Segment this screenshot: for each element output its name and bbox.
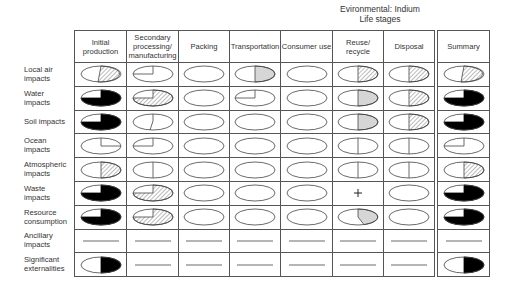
three-quarter-black-rating-icon	[443, 208, 485, 226]
column-header: Reuse/ recycle	[333, 31, 384, 63]
rating-cell	[230, 110, 281, 134]
rating-cell	[75, 134, 127, 158]
half-line-rating-icon	[337, 137, 379, 155]
three-quarter-black-rating-icon	[443, 184, 485, 202]
rating-cell	[281, 63, 333, 87]
rating-cell	[384, 181, 435, 205]
half-line-rating-icon	[388, 137, 430, 155]
column-header: Packing	[179, 31, 230, 63]
rating-cell	[179, 63, 230, 87]
summary-cell	[438, 253, 490, 277]
half-line-rating-icon	[337, 161, 379, 179]
quarter-outline-rating-icon	[443, 137, 485, 155]
dash-icon	[286, 256, 328, 274]
rating-cell	[333, 205, 384, 229]
summary-row	[438, 86, 490, 110]
row-label: Waste impacts	[24, 181, 72, 205]
rating-cell	[179, 181, 230, 205]
column-header-summary: Summary	[438, 31, 490, 63]
three-quarter-hatch-rating-icon	[132, 184, 174, 202]
rating-cell	[281, 253, 333, 277]
row-label: Local air impacts	[24, 62, 72, 86]
three-quarter-black-rating-icon	[80, 208, 122, 226]
title-line-1: Evironmental: Indium	[250, 4, 510, 14]
three-quarter-black-rating-icon	[80, 184, 122, 202]
rating-cell	[281, 110, 333, 134]
rating-cell	[75, 110, 127, 134]
rating-cell	[179, 110, 230, 134]
rating-cell	[75, 158, 127, 182]
rating-cell	[333, 253, 384, 277]
three-quarter-hatch-rating-icon	[132, 89, 174, 107]
three-quarter-black-rating-icon	[443, 113, 485, 131]
rating-cell	[127, 205, 179, 229]
right-half-gray-rating-icon	[234, 65, 276, 83]
row-label: Atmospheric impacts	[24, 157, 72, 181]
right-half-hatch-rating-icon	[388, 89, 430, 107]
table-row	[75, 229, 435, 253]
right-half-hatch-rating-icon	[388, 65, 430, 83]
rating-cell	[230, 63, 281, 87]
empty-rating-icon	[286, 113, 328, 131]
rating-cell	[75, 181, 127, 205]
summary-cell	[438, 110, 490, 134]
rating-cell	[127, 134, 179, 158]
dash-icon	[337, 232, 379, 250]
table-row	[75, 110, 435, 134]
empty-rating-icon	[234, 113, 276, 131]
rating-cell	[384, 86, 435, 110]
summary-cell	[438, 158, 490, 182]
rating-cell	[230, 229, 281, 253]
rating-cell	[230, 158, 281, 182]
empty-rating-icon	[183, 161, 225, 179]
empty-rating-icon	[234, 208, 276, 226]
rating-cell	[384, 253, 435, 277]
empty-rating-icon	[286, 208, 328, 226]
life-stage-matrix: Initial productionSecondary processing/ …	[74, 30, 435, 277]
three-quarter-black-rating-icon	[443, 89, 485, 107]
empty-rating-icon	[388, 208, 430, 226]
table-row	[75, 158, 435, 182]
summary-cell	[438, 134, 490, 158]
rating-cell	[384, 205, 435, 229]
rating-cell	[179, 158, 230, 182]
column-header: Initial production	[75, 31, 127, 63]
rating-cell	[230, 181, 281, 205]
row-label: Water impacts	[24, 86, 72, 110]
dash-icon	[337, 256, 379, 274]
rating-cell	[333, 181, 384, 205]
right-half-gray-rating-icon	[337, 113, 379, 131]
empty-rating-icon	[183, 184, 225, 202]
summary-cell	[438, 205, 490, 229]
rating-cell	[230, 205, 281, 229]
rating-cell	[230, 134, 281, 158]
right-half-hatch-rating-icon	[337, 65, 379, 83]
row-label: Ocean impacts	[24, 133, 72, 157]
empty-rating-icon	[183, 89, 225, 107]
empty-rating-icon	[286, 65, 328, 83]
rating-cell	[75, 86, 127, 110]
dash-icon	[80, 232, 122, 250]
rating-cell	[384, 110, 435, 134]
rating-cell	[333, 158, 384, 182]
rating-cell	[179, 86, 230, 110]
summary-row	[438, 181, 490, 205]
rating-cell	[384, 63, 435, 87]
rating-cell	[127, 253, 179, 277]
rating-cell	[333, 229, 384, 253]
empty-rating-icon	[234, 137, 276, 155]
rating-cell	[127, 229, 179, 253]
quarter-outline-right-rating-icon	[80, 137, 122, 155]
row-label: Ancillary impacts	[24, 229, 72, 253]
empty-rating-icon	[183, 137, 225, 155]
rating-cell	[384, 158, 435, 182]
rating-cell	[333, 134, 384, 158]
chart-title: Evironmental: Indium Life stages	[250, 4, 510, 24]
summary-row	[438, 134, 490, 158]
empty-rating-icon	[183, 113, 225, 131]
empty-rating-icon	[286, 161, 328, 179]
right-half-black-rating-icon	[80, 256, 122, 274]
three-quarter-black-rating-icon	[80, 89, 122, 107]
empty-rating-icon	[286, 137, 328, 155]
rating-cell	[75, 253, 127, 277]
